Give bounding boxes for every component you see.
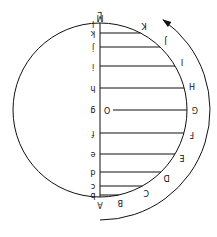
rotation-arc xyxy=(100,20,210,220)
label-I: I xyxy=(181,57,183,66)
label-H: H xyxy=(189,81,195,90)
label-h: h xyxy=(90,84,95,93)
label-c: c xyxy=(91,182,95,191)
semicircle-chord-diagram: MAlLkKjJiIhHgGOfFeEdDcCbB xyxy=(0,0,217,237)
label-f: f xyxy=(91,129,94,138)
arrowhead-icon xyxy=(162,19,171,27)
label-k: k xyxy=(90,29,95,38)
label-l: l xyxy=(92,19,94,28)
label-j: j xyxy=(92,43,95,52)
label-G: G xyxy=(192,105,198,114)
label-K: K xyxy=(141,21,147,30)
label-J: J xyxy=(164,36,167,45)
label-d: d xyxy=(90,168,95,177)
label-C: C xyxy=(143,188,149,197)
label-D: D xyxy=(164,173,170,182)
label-g: g xyxy=(90,106,95,115)
label-e: e xyxy=(90,150,95,159)
label-i: i xyxy=(92,62,94,71)
label-E: E xyxy=(179,153,184,162)
label-B: B xyxy=(118,198,124,207)
label-O: O xyxy=(104,105,110,114)
label-b: b xyxy=(90,191,95,200)
label-F: F xyxy=(189,130,194,139)
label-A: A xyxy=(97,200,103,209)
label-L: L xyxy=(97,10,102,19)
